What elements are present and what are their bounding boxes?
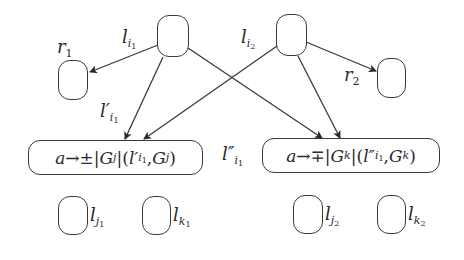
label-base: l″ <box>222 143 234 164</box>
rule-G-sub: k <box>344 149 351 162</box>
rule-bar-paren: |( <box>351 146 363 166</box>
rule-G2: G <box>152 148 166 168</box>
label-r2: r2 <box>344 66 360 87</box>
node-l-i1 <box>157 15 189 57</box>
rule-G: G <box>100 148 114 168</box>
node-l-k2 <box>377 195 406 234</box>
rule-l: l″ <box>363 146 375 166</box>
label-l-k2: lk2 <box>408 205 426 228</box>
label-l-k1: lk1 <box>173 206 191 229</box>
label-sub: 1 <box>66 47 73 60</box>
rule-sign: ± <box>80 148 94 168</box>
rule-sign: ∓ <box>311 146 325 166</box>
label-subsub: 1 <box>131 42 136 51</box>
rule-a: a <box>55 148 65 168</box>
node-r1 <box>58 60 88 100</box>
label-l-i1: li1 <box>122 28 136 51</box>
node-l-k1 <box>142 196 171 235</box>
rule-box-right: a → ∓|Gk|(l″i1, Gk) <box>262 138 440 173</box>
label-l-i2: li2 <box>241 28 255 51</box>
label-l-j2: lj2 <box>325 205 339 228</box>
label-base: r <box>57 36 66 57</box>
label-base: r <box>344 64 353 85</box>
node-l-i2 <box>276 14 307 56</box>
node-r2 <box>377 58 406 98</box>
rule-l: l′ <box>129 148 138 168</box>
label-subsub: 2 <box>334 219 339 228</box>
label-sub: 2 <box>353 75 360 88</box>
label-subsub: 2 <box>250 42 255 51</box>
edge-li2-to-left-rule <box>144 46 277 139</box>
rule-arrow: → <box>65 148 79 168</box>
rule-G: G <box>331 146 345 166</box>
rule-close: ) <box>169 148 176 168</box>
label-l-prime-i1: l′i1 <box>100 102 118 125</box>
rule-arrow: → <box>296 146 310 166</box>
rule-box-left: a → ±|Gj|(l′i1, Gj) <box>28 140 203 175</box>
label-subsub: 1 <box>185 220 190 229</box>
label-subsub: 2 <box>420 219 425 228</box>
rule-G2: G <box>389 146 403 166</box>
rule-bar-paren: |( <box>117 148 129 168</box>
label-l-dprime-i1: l″i1 <box>222 145 243 168</box>
rule-G2-sub: k <box>403 149 410 162</box>
label-base: l′ <box>100 100 110 121</box>
label-subsub: 1 <box>113 116 118 125</box>
node-l-j2 <box>293 195 323 234</box>
label-subsub: 1 <box>238 159 243 168</box>
edge-li2-to-r2 <box>306 42 376 71</box>
edge-li1-to-left-rule <box>125 57 163 139</box>
rule-a: a <box>286 146 296 166</box>
label-r1: r1 <box>57 38 73 59</box>
label-subsub: 1 <box>99 220 104 229</box>
node-l-j1 <box>58 196 88 235</box>
label-l-j1: lj1 <box>90 206 104 229</box>
rule-close: ) <box>409 146 416 166</box>
